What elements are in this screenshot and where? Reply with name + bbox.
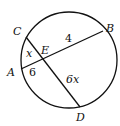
segment-label-ae: 6 [29, 66, 36, 79]
segment-label-eb: 4 [65, 32, 72, 45]
segment-label-ce: x [26, 47, 33, 60]
point-label-a: A [6, 66, 15, 79]
point-label-b: B [105, 22, 114, 35]
circle-diagram: C A B D E x 4 6 6x [0, 0, 120, 126]
point-label-d: D [75, 111, 85, 124]
chord-ab [21, 31, 103, 69]
point-label-c: C [13, 25, 22, 38]
segment-label-ed: 6x [66, 73, 80, 86]
point-label-e: E [40, 44, 49, 57]
